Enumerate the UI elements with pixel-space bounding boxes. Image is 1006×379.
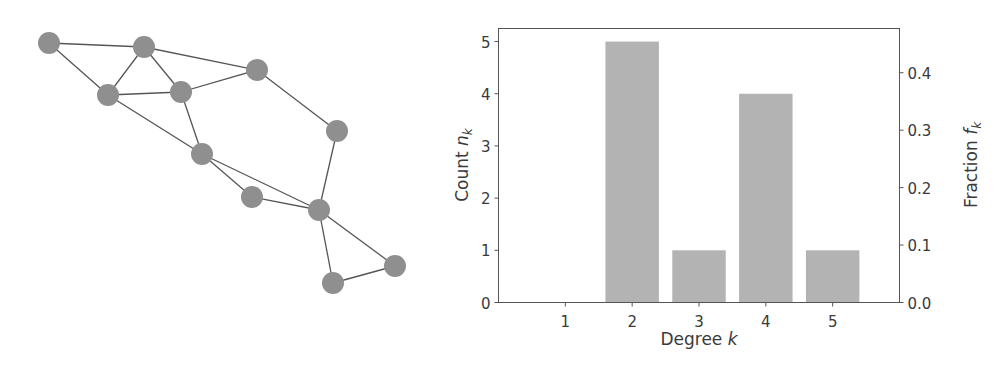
- network-edge: [108, 95, 202, 154]
- x-tick-label: 1: [561, 313, 571, 331]
- network-node: [97, 84, 119, 106]
- y-tick-label-right: 0.1: [908, 237, 932, 255]
- y-tick-label: 4: [481, 86, 491, 104]
- network-graph: [38, 32, 406, 294]
- figure: 12345 012345 0.00.10.20.30.4 Degree k Co…: [0, 0, 1006, 379]
- x-tick-label: 2: [627, 313, 637, 331]
- network-node: [133, 36, 155, 58]
- network-edge: [49, 43, 144, 47]
- network-node: [384, 255, 406, 277]
- network-node: [191, 143, 213, 165]
- y-axis-ticks-right: 0.00.10.20.30.4: [900, 65, 932, 313]
- y-tick-label: 2: [481, 190, 491, 208]
- network-edge: [144, 47, 257, 70]
- histogram-bar: [739, 94, 792, 303]
- y-tick-label: 5: [481, 34, 491, 52]
- histogram-bar: [672, 250, 725, 302]
- network-node: [308, 199, 330, 221]
- network-node: [246, 59, 268, 81]
- x-tick-label: 3: [694, 313, 704, 331]
- y-axis-label-right: Fraction fk: [961, 121, 984, 208]
- histogram-bar: [605, 42, 658, 303]
- y-tick-label: 1: [481, 242, 491, 260]
- network-node: [38, 32, 60, 54]
- x-tick-label: 5: [828, 313, 838, 331]
- histogram-bars: [605, 42, 859, 303]
- network-node: [322, 272, 344, 294]
- network-edge: [319, 210, 395, 266]
- y-tick-label-right: 0.2: [908, 180, 932, 198]
- y-tick-label-right: 0.4: [908, 65, 932, 83]
- degree-histogram: 12345 012345 0.00.10.20.30.4 Degree k Co…: [452, 29, 984, 350]
- x-axis-label: Degree k: [660, 329, 738, 349]
- x-axis-ticks: 12345: [561, 303, 838, 331]
- network-edges: [49, 43, 395, 283]
- network-edge: [181, 70, 257, 92]
- network-edge: [319, 131, 337, 210]
- y-tick-label-right: 0.0: [908, 295, 932, 313]
- histogram-bar: [806, 250, 859, 302]
- network-node: [326, 120, 348, 142]
- y-axis-label-left: Count nk: [452, 127, 475, 202]
- network-node: [170, 81, 192, 103]
- y-axis-ticks-left: 012345: [481, 34, 499, 313]
- x-tick-label: 4: [761, 313, 771, 331]
- network-edge: [319, 210, 333, 283]
- network-edge: [257, 70, 337, 131]
- network-edge: [49, 43, 108, 95]
- y-tick-label: 0: [481, 295, 491, 313]
- y-tick-label: 3: [481, 138, 491, 156]
- y-tick-label-right: 0.3: [908, 122, 932, 140]
- network-node: [241, 186, 263, 208]
